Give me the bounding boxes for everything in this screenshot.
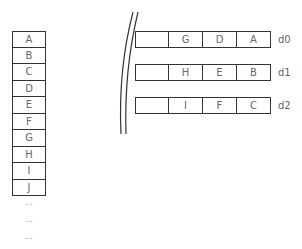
device-cell: F xyxy=(203,97,237,114)
array-cell: F xyxy=(12,114,46,131)
device-cell: H xyxy=(169,64,203,81)
array-cell: B xyxy=(12,48,46,65)
array-cell: I xyxy=(12,163,46,180)
device-label: d1 xyxy=(278,64,291,81)
array-cell: D xyxy=(12,81,46,98)
device-cell: C xyxy=(237,97,271,114)
device-cell xyxy=(136,97,169,114)
device-row-d2: I F C xyxy=(135,97,271,114)
device-cell xyxy=(136,64,169,81)
device-cell xyxy=(136,31,169,48)
device-cell: I xyxy=(169,97,203,114)
array-cell: C xyxy=(12,64,46,81)
array-cell: J xyxy=(12,180,46,197)
device-row-d0: G D A xyxy=(135,31,271,48)
ellipsis: ... xyxy=(12,215,46,224)
array-cell: G xyxy=(12,130,46,147)
device-cell: D xyxy=(203,31,237,48)
device-cell: G xyxy=(169,31,203,48)
device-cell: B xyxy=(237,64,271,81)
ellipsis: ... xyxy=(12,232,46,241)
array-cell: A xyxy=(12,31,46,48)
array-cell: H xyxy=(12,147,46,164)
array-cell: E xyxy=(12,97,46,114)
device-cell: A xyxy=(237,31,271,48)
ellipsis: ... xyxy=(12,198,46,207)
source-array: A B C D E F G H I J xyxy=(12,31,46,196)
device-label: d0 xyxy=(278,31,291,48)
device-label: d2 xyxy=(278,97,291,114)
device-row-d1: H E B xyxy=(135,64,271,81)
device-cell: E xyxy=(203,64,237,81)
